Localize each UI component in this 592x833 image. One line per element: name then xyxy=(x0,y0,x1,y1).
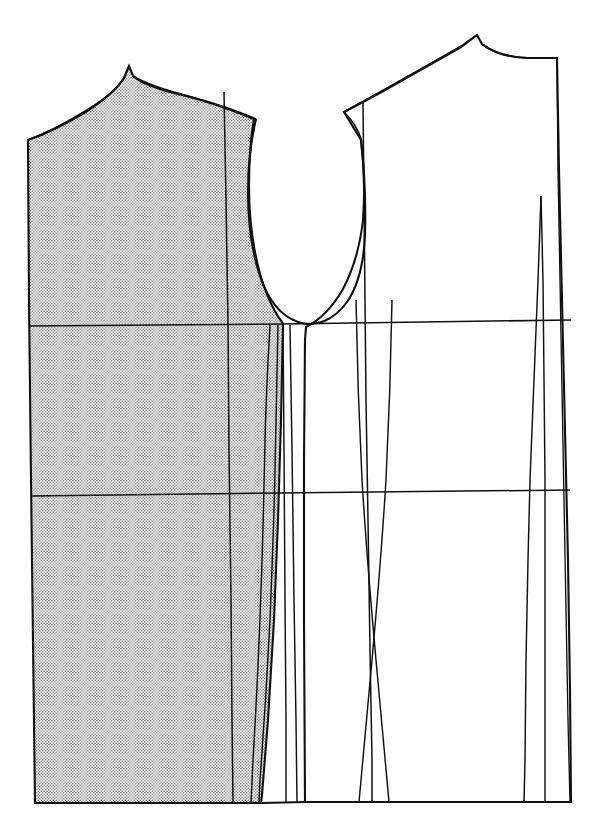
pattern-sheet: Bodice Pattern Draft bodice block patter… xyxy=(0,0,592,833)
pattern-drawing xyxy=(0,0,592,833)
hem-line xyxy=(35,802,571,803)
front-piece-outline xyxy=(28,66,283,803)
front-piece-group xyxy=(28,66,283,803)
